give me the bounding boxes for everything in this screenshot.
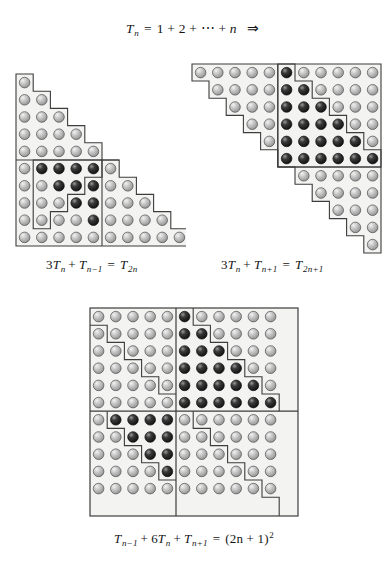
title-formula: Tn=1 + 2 + ⋯ + n⇒ [126,20,262,38]
right-coefficient: 3 [221,257,228,272]
panel-right-triangle [190,62,382,254]
bottom-square-svg [88,306,300,518]
left-T3-sub: 2n [128,264,138,274]
title-series: 1 + 2 + ⋯ + [157,21,230,36]
bottom-T3-sub: n+1 [191,538,207,548]
bottom-rhs: (2n + 1) [225,531,269,546]
left-triangle-svg [14,72,186,248]
title-T: T [126,21,134,36]
left-coefficient: 3 [46,257,53,272]
right-T3-sub: 2n+1 [303,264,324,274]
bottom-T3: T [184,531,191,546]
right-T3: T [295,257,302,272]
right-plus: + [240,257,254,272]
right-triangle-svg [190,62,382,254]
title-last-term: n [230,21,237,36]
bottom-rhs-exponent: 2 [269,530,274,540]
bottom-T2-sub: n [165,538,170,548]
panel-left-triangle [14,72,186,248]
figure-canvas: Tn=1 + 2 + ⋯ + n⇒ [0,0,388,562]
bottom-equals: = [208,531,226,546]
right-T2-sub: n+1 [261,264,277,274]
bottom-plus-1: + [138,531,152,546]
title-equals: = [139,21,157,36]
bottom-plus-2: + [171,531,185,546]
right-equals: = [278,257,296,272]
implies-arrow-icon: ⇒ [237,21,262,36]
left-plus: + [65,257,79,272]
left-T3: T [120,257,127,272]
bottom-coefficient: 6 [151,531,158,546]
caption-left-formula: 3Tn+Tn−1=T2n [46,257,137,274]
left-equals: = [103,257,121,272]
caption-bottom-formula: Tn−1+6Tn+Tn+1=(2n + 1)2 [114,530,274,548]
panel-bottom-square [88,306,300,518]
left-T2-sub: n−1 [86,264,102,274]
bottom-T1-sub: n−1 [121,538,137,548]
caption-right-formula: 3Tn+Tn+1=T2n+1 [221,257,323,274]
